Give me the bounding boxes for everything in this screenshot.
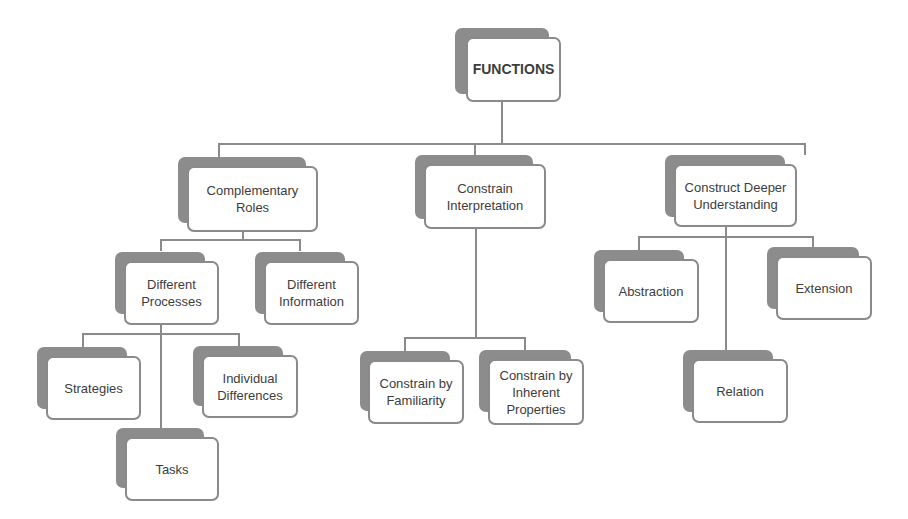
node-tasks-label: Tasks (125, 437, 219, 501)
connector-to-strategies (82, 333, 84, 347)
connector-to-constrain-interpretation (474, 143, 476, 155)
node-constrain-interpretation-label: Constrain Interpretation (424, 164, 546, 229)
node-construct-deeper-label: Construct Deeper Understanding (674, 164, 797, 227)
connector-complementary-bar (160, 239, 301, 241)
connector-deeper-bar (638, 236, 814, 238)
connector-deeper-down (725, 226, 727, 350)
node-functions-label: FUNCTIONS (466, 37, 561, 102)
connector-processes-down (160, 325, 162, 429)
connector-to-abstraction (638, 236, 640, 250)
connector-to-individual-differences (238, 333, 240, 347)
functions-hierarchy-diagram: FUNCTIONS Complementary Roles Constrain … (0, 0, 908, 519)
connector-level1-bar (218, 143, 805, 145)
connector-root-down (501, 101, 503, 145)
node-extension-label: Extension (776, 256, 872, 320)
node-constrain-inherent-label: Constrain by Inherent Properties (488, 359, 584, 425)
connector-to-familiarity (404, 337, 406, 351)
node-strategies-label: Strategies (46, 356, 141, 420)
node-different-processes-label: Different Processes (124, 261, 219, 325)
connector-to-inherent-properties (524, 337, 526, 351)
node-complementary-roles-label: Complementary Roles (187, 166, 318, 232)
node-relation-label: Relation (692, 359, 788, 423)
connector-to-complementary-roles (218, 143, 220, 157)
node-constrain-familiarity-label: Constrain by Familiarity (368, 360, 464, 424)
node-different-information-label: Different Information (264, 261, 359, 325)
connector-to-different-processes (160, 239, 162, 251)
connector-to-different-information (299, 239, 301, 251)
connector-processes-bar (82, 333, 240, 335)
connector-interpretation-down (475, 229, 477, 339)
connector-to-construct-deeper (804, 143, 806, 155)
node-individual-differences-label: Individual Differences (202, 355, 298, 418)
connector-interpretation-bar (404, 337, 526, 339)
node-abstraction-label: Abstraction (603, 259, 699, 323)
